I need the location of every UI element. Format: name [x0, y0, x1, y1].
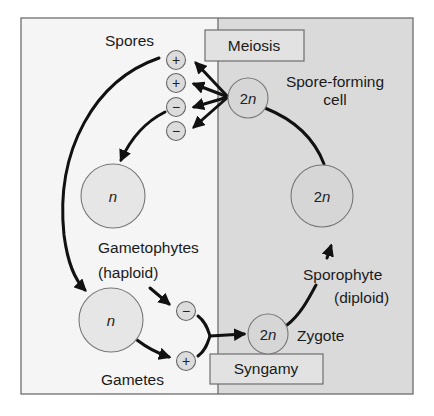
spore-minus-2: − — [167, 122, 186, 141]
sporophyte-label-1: Sporophyte — [303, 266, 382, 283]
spore-minus-1: − — [167, 98, 186, 117]
svg-text:2n: 2n — [260, 326, 277, 343]
svg-text:−: − — [172, 123, 180, 139]
life-cycle-diagram: Meiosis Syngamy + + − − − + — [0, 0, 434, 416]
spore-forming-cell: 2n — [228, 78, 268, 118]
gametophyte-lower: n — [79, 288, 143, 352]
syngamy-label: Syngamy — [234, 360, 299, 377]
zygote-cell: 2n — [248, 314, 288, 354]
spore-forming-label-1: Spore-forming — [286, 73, 384, 90]
svg-text:+: + — [172, 75, 180, 91]
svg-text:n: n — [107, 312, 115, 329]
meiosis-box: Meiosis — [205, 30, 304, 61]
spore-plus-2: + — [167, 74, 186, 93]
svg-text:−: − — [182, 303, 190, 319]
sporophyte-cell: 2n — [291, 165, 353, 227]
svg-text:+: + — [182, 353, 190, 369]
gametophyte-upper: n — [81, 164, 145, 228]
zygote-label: Zygote — [297, 327, 344, 344]
sporophyte-label-2: (diploid) — [334, 289, 389, 306]
spore-plus-1: + — [167, 51, 186, 70]
gametophytes-label-2: (haploid) — [98, 264, 158, 281]
svg-text:+: + — [172, 52, 180, 68]
svg-text:2n: 2n — [314, 188, 331, 205]
gametes-label: Gametes — [101, 371, 164, 388]
svg-text:n: n — [109, 188, 117, 205]
svg-text:−: − — [172, 99, 180, 115]
syngamy-box: Syngamy — [210, 354, 323, 384]
meiosis-label: Meiosis — [228, 37, 281, 54]
spores-label: Spores — [105, 32, 154, 49]
gamete-plus: + — [177, 352, 196, 371]
gamete-minus: − — [177, 302, 196, 321]
gametophytes-label-1: Gametophytes — [98, 239, 199, 256]
svg-text:2n: 2n — [240, 90, 257, 107]
spore-forming-label-2: cell — [323, 91, 346, 108]
